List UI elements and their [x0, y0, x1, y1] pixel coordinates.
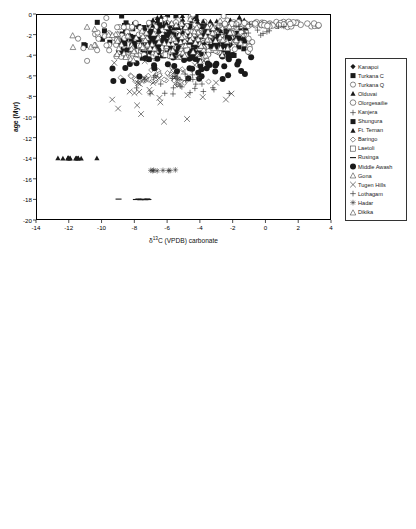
legend-label: Turkana C: [358, 73, 384, 79]
legend-marker-filled-circle-icon: [349, 162, 357, 171]
y-tick-label: -6: [14, 72, 32, 79]
x-tick-label: -12: [64, 224, 73, 231]
legend-marker-open-diamond-icon: [349, 135, 357, 144]
legend-label: Gona: [358, 173, 372, 179]
legend-item-kanjera[interactable]: Kanjera: [349, 107, 404, 116]
legend-marker-plus-icon: [349, 108, 357, 117]
legend-label: Olorgesailie: [358, 100, 388, 106]
legend-item-turkana-q[interactable]: Turkana Q: [349, 80, 404, 89]
legend-label: Rusinga: [358, 154, 379, 160]
legend-item-hadar[interactable]: Hadar: [349, 198, 404, 207]
legend-item-gona[interactable]: Gona: [349, 171, 404, 180]
x-tick-label: -8: [132, 224, 138, 231]
legend-item-tugen-hills[interactable]: Tugen Hills: [349, 180, 404, 189]
x-tick-label: 4: [329, 224, 332, 231]
series-ft-ternan: [55, 155, 99, 160]
legend-item-rusinga[interactable]: Rusinga: [349, 153, 404, 162]
series-rusinga: [116, 199, 152, 200]
legend-marker-open-triangle-icon: [349, 171, 357, 180]
legend-item-olorgesailie[interactable]: Olorgesailie: [349, 98, 404, 107]
legend-label: Olduvai: [358, 91, 377, 97]
chart-panel-bottom: -14-12-10-8-6-4-20240-2-4-6-8-10-12-14-1…: [0, 265, 416, 529]
legend-label: Hadar: [358, 200, 373, 206]
legend-item-turkana-c[interactable]: Turkana C: [349, 71, 404, 80]
legend-marker-plus-icon: [349, 189, 357, 198]
legend-marker-cross-icon: [349, 180, 357, 189]
legend-label: Ft. Ternan: [358, 127, 383, 133]
y-tick-label: 0: [14, 11, 32, 18]
legend-item-olduvai[interactable]: Olduvai: [349, 89, 404, 98]
legend-label: Kanjera: [358, 109, 377, 115]
x-tick-label: -6: [164, 224, 170, 231]
legend-marker-filled-square-icon: [349, 71, 357, 80]
data-layer: [0, 265, 416, 529]
y-axis-title: age (Myr): [12, 102, 19, 132]
legend-label: Shungura: [358, 118, 382, 124]
legend-item-kanapoi[interactable]: Kanapoi: [349, 62, 404, 71]
y-tick-label: -4: [14, 52, 32, 59]
legend-label: Dikika: [358, 209, 373, 215]
y-tick-label: -8: [14, 93, 32, 100]
y-tick-label: -2: [14, 31, 32, 38]
legend-marker-open-circle-icon: [349, 80, 357, 89]
legend-marker-dash-icon: [349, 153, 357, 162]
y-tick-label: -18: [14, 196, 32, 203]
x-tick-label: 0: [264, 224, 267, 231]
legend-label: Middle Awash: [358, 164, 392, 170]
legend-item-baringo[interactable]: Baringo: [349, 135, 404, 144]
legend-marker-open-circle-icon: [349, 98, 357, 107]
y-tick-label: -16: [14, 175, 32, 182]
legend-marker-open-square-icon: [349, 144, 357, 153]
legend-marker-star-icon: [349, 198, 357, 207]
legend-item-laetoli[interactable]: Laetoli: [349, 144, 404, 153]
chart-legend: KanapoiTurkana CTurkana QOlduvaiOlorgesa…: [345, 58, 407, 221]
y-tick-label: -12: [14, 134, 32, 141]
legend-label: Lothagam: [358, 191, 383, 197]
legend-label: Tugen Hills: [358, 182, 386, 188]
legend-label: Turkana Q: [358, 82, 384, 88]
legend-marker-filled-diamond-icon: [349, 62, 357, 71]
legend-marker-open-triangle-icon: [349, 208, 357, 217]
legend-marker-filled-square-icon: [349, 117, 357, 126]
legend-label: Laetoli: [358, 145, 374, 151]
x-tick-label: -10: [97, 224, 106, 231]
legend-item-shungura[interactable]: Shungura: [349, 117, 404, 126]
legend-marker-filled-triangle-icon: [349, 126, 357, 135]
x-tick-label: -14: [32, 224, 41, 231]
legend-marker-filled-triangle-icon: [349, 89, 357, 98]
isotope-figure: -14-12-10-8-6-4-20240-2-4-6-8-10-12-14-1…: [0, 0, 416, 529]
x-tick-label: -2: [230, 224, 236, 231]
legend-item-dikika[interactable]: Dikika: [349, 208, 404, 217]
x-tick-label: 2: [296, 224, 299, 231]
legend-item-lothagam[interactable]: Lothagam: [349, 189, 404, 198]
legend-label: Kanapoi: [358, 64, 379, 70]
chart-panel-top: -14-12-10-8-6-4-20240-2-4-6-8-10-12-14-1…: [0, 0, 416, 264]
y-tick-label: -20: [14, 217, 32, 224]
y-tick-label: -14: [14, 155, 32, 162]
x-axis-title: δ13C (VPDB) carbonate: [149, 236, 218, 244]
legend-item-middle-awash[interactable]: Middle Awash: [349, 162, 404, 171]
legend-item-ft-ternan[interactable]: Ft. Ternan: [349, 126, 404, 135]
legend-label: Baringo: [358, 136, 377, 142]
x-tick-label: -4: [197, 224, 203, 231]
series-hadar: [148, 167, 178, 174]
